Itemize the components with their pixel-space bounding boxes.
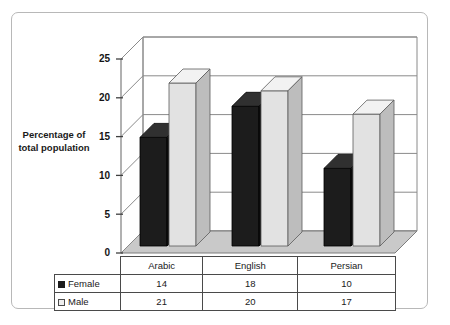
table-corner-cell [55,257,121,275]
cell-female-arabic: 14 [121,275,203,293]
bar-english-male [261,77,302,246]
bar-persian-male [353,100,394,246]
legend-entry-male: Male [55,293,121,311]
male-swatch-icon [58,299,65,306]
column-header-persian: Persian [298,257,396,275]
data-table: Arabic English Persian Female 14 18 10 M… [54,256,396,311]
table-header-row: Arabic English Persian [55,257,396,275]
cell-male-english: 20 [203,293,298,311]
table-row: Female 14 18 10 [55,275,396,293]
legend-label-male: Male [68,296,89,307]
y-tick-15: 15 [90,131,110,142]
y-axis-title-line1: Percentage of [18,128,90,141]
y-tick-25: 25 [90,53,110,64]
y-axis-title: Percentage of total population [18,128,90,154]
y-tick-20: 20 [90,92,110,103]
legend-entry-female: Female [55,275,121,293]
chart-screenshot: 25 20 15 10 5 0 Percentage of total popu… [0,0,450,325]
column-header-arabic: Arabic [121,257,203,275]
bar-arabic-male [169,69,210,246]
chart-outer-frame: 25 20 15 10 5 0 Percentage of total popu… [11,12,428,309]
y-axis-ticks [116,59,123,253]
cell-male-persian: 17 [298,293,396,311]
cell-female-persian: 10 [298,275,396,293]
y-tick-5: 5 [90,209,110,220]
table-row: Male 21 20 17 [55,293,396,311]
column-header-english: English [203,257,298,275]
legend-label-female: Female [68,278,100,289]
cell-male-arabic: 21 [121,293,203,311]
y-tick-10: 10 [90,170,110,181]
cell-female-english: 18 [203,275,298,293]
y-axis-title-line2: total population [18,141,90,154]
female-swatch-icon [58,281,65,288]
